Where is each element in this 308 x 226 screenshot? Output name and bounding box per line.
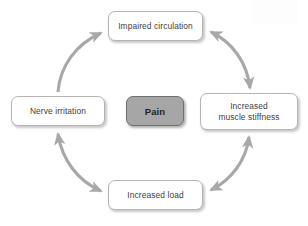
pain-cycle-diagram: Impaired circulation Increased muscle st… [0, 0, 308, 226]
scan-artifact [252, 0, 298, 24]
node-impaired-circulation-label: Impaired circulation [115, 21, 196, 32]
node-increased-load: Increased load [108, 180, 203, 210]
arrow-increased-muscle-stiffness-to-increased-load [211, 137, 249, 190]
node-pain: Pain [126, 96, 184, 126]
arrow-impaired-circulation-to-increased-muscle-stiffness [211, 32, 250, 88]
node-increased-muscle-stiffness-label: Increased muscle stiffness [215, 101, 282, 123]
node-impaired-circulation: Impaired circulation [108, 11, 203, 41]
node-nerve-irritation-label: Nerve irritation [27, 106, 89, 117]
node-pain-label: Pain [142, 106, 168, 117]
node-increased-muscle-stiffness: Increased muscle stiffness [200, 93, 298, 130]
node-increased-load-label: Increased load [124, 190, 186, 201]
arrow-increased-load-to-nerve-irritation [58, 134, 101, 191]
node-nerve-irritation: Nerve irritation [11, 96, 105, 126]
arrow-nerve-irritation-to-impaired-circulation [58, 33, 101, 92]
